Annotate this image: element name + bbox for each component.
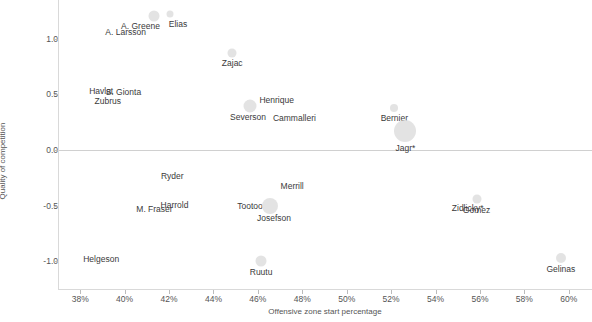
data-point-bubble[interactable]: [394, 120, 416, 142]
data-point-bubble[interactable]: [243, 99, 256, 112]
data-point-label: Gelinas: [546, 264, 575, 274]
x-tick-label: 60%: [560, 294, 577, 304]
data-point-bubble[interactable]: [228, 49, 237, 58]
data-point-label: Harrold: [161, 200, 189, 210]
x-tick-label: 54%: [427, 294, 444, 304]
y-tick-label: 1.0: [18, 34, 58, 44]
data-point-label: Henrique: [259, 95, 294, 105]
data-point-label: Elias: [169, 19, 187, 29]
x-tick-label: 52%: [383, 294, 400, 304]
data-point-bubble[interactable]: [262, 198, 278, 214]
y-tick-label: -1.0: [18, 256, 58, 266]
data-point-label: Zajac: [222, 58, 243, 68]
data-point-label: Ruutu: [250, 267, 273, 277]
x-tick-mark: [125, 290, 126, 294]
data-point-label: Merrill: [281, 181, 304, 191]
data-point-label: Zidlicky*: [452, 203, 484, 213]
x-tick-label: 38%: [72, 294, 89, 304]
x-tick-mark: [302, 290, 303, 294]
data-point-bubble[interactable]: [167, 11, 174, 18]
x-tick-label: 46%: [249, 294, 266, 304]
data-point-bubble[interactable]: [256, 256, 267, 267]
data-point-bubble[interactable]: [556, 253, 566, 263]
y-tick-label: 0.0: [18, 145, 58, 155]
x-tick-label: 50%: [338, 294, 355, 304]
x-axis-title: Offensive zone start percentage: [58, 307, 592, 316]
data-point-bubble[interactable]: [390, 104, 398, 112]
data-point-label: Severson: [230, 112, 266, 122]
data-point-label: Tootoo: [237, 201, 263, 211]
x-tick-mark: [480, 290, 481, 294]
data-point-label: Jagr*: [396, 143, 416, 153]
data-point-label: Cammalleri: [273, 113, 316, 123]
x-tick-mark: [524, 290, 525, 294]
y-axis: 1.00.50.0-0.5-1.0: [0, 0, 58, 290]
plot-area: A. GreeneEliasA. LarssonZajacHavlatS. Gi…: [58, 0, 592, 290]
data-point-label: Ryder: [161, 171, 184, 181]
x-tick-label: 40%: [116, 294, 133, 304]
x-tick-mark: [213, 290, 214, 294]
y-axis-title: Quality of competition: [0, 101, 7, 221]
x-tick-mark: [347, 290, 348, 294]
scatter-chart: 1.00.50.0-0.5-1.0 Quality of competition…: [0, 0, 592, 322]
x-tick-mark: [391, 290, 392, 294]
x-tick-mark: [569, 290, 570, 294]
x-tick-label: 42%: [161, 294, 178, 304]
data-point-label: Zubrus: [95, 96, 121, 106]
data-point-label: Helgeson: [83, 254, 119, 264]
y-tick-label: -0.5: [18, 201, 58, 211]
x-tick-mark: [436, 290, 437, 294]
x-tick-label: 58%: [516, 294, 533, 304]
x-tick-mark: [80, 290, 81, 294]
y-tick-label: 0.5: [18, 89, 58, 99]
x-tick-mark: [258, 290, 259, 294]
x-tick-mark: [169, 290, 170, 294]
zero-reference-line: [59, 150, 592, 151]
x-tick-label: 44%: [205, 294, 222, 304]
data-point-label: A. Larsson: [105, 27, 146, 37]
data-point-bubble[interactable]: [149, 10, 160, 21]
data-point-label: Josefson: [257, 213, 291, 223]
x-tick-label: 48%: [294, 294, 311, 304]
x-tick-label: 56%: [471, 294, 488, 304]
